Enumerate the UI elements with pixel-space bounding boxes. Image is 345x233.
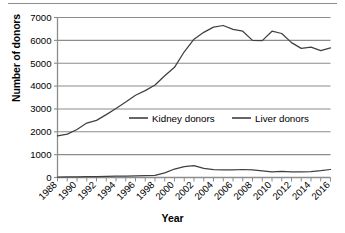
x-axis-title: Year <box>0 212 345 224</box>
x-tick-label-1992: 1992 <box>75 179 98 202</box>
y-tick-label-2000: 2000 <box>30 126 51 137</box>
x-tick-label-2000: 2000 <box>153 179 176 202</box>
x-tick-label-1994: 1994 <box>95 179 118 202</box>
x-tick-label-2010: 2010 <box>251 179 274 202</box>
x-tick-label-2016: 2016 <box>309 179 332 202</box>
y-tick-label-7000: 7000 <box>30 12 51 23</box>
legend-label-0: Kidney donors <box>152 113 215 124</box>
x-tick-label-2002: 2002 <box>173 179 196 202</box>
y-axis-title: Number of donors <box>10 0 22 128</box>
figure-container: 0100020003000400050006000700019881990199… <box>0 0 345 233</box>
y-tick-label-1000: 1000 <box>30 149 51 160</box>
y-tick-label-3000: 3000 <box>30 103 51 114</box>
x-tick-label-1998: 1998 <box>134 179 157 202</box>
donors-line-chart: 0100020003000400050006000700019881990199… <box>0 0 345 233</box>
chart-plot-area: 0100020003000400050006000700019881990199… <box>0 0 345 233</box>
y-tick-label-4000: 4000 <box>30 80 51 91</box>
x-tick-label-2014: 2014 <box>290 179 313 202</box>
x-tick-label-2006: 2006 <box>212 179 235 202</box>
x-tick-label-1990: 1990 <box>56 179 79 202</box>
x-tick-label-1996: 1996 <box>114 179 137 202</box>
x-tick-label-2012: 2012 <box>270 179 293 202</box>
y-tick-label-6000: 6000 <box>30 35 51 46</box>
x-tick-label-2004: 2004 <box>192 179 215 202</box>
series-line-liver-donors <box>58 166 331 177</box>
x-tick-label-1988: 1988 <box>36 179 59 202</box>
x-tick-label-2008: 2008 <box>231 179 254 202</box>
y-tick-label-5000: 5000 <box>30 58 51 69</box>
legend-label-1: Liver donors <box>255 113 309 124</box>
